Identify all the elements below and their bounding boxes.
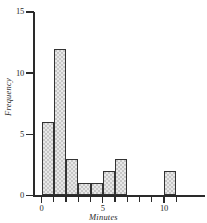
histogram-bars — [0, 0, 207, 223]
bar-3-4 — [78, 183, 90, 195]
bar-1-2 — [54, 49, 66, 196]
bar-0-1 — [42, 122, 54, 195]
bar-10-11 — [164, 171, 176, 195]
bar-6-7 — [115, 159, 127, 196]
histogram-figure: 051015 0510 Frequency Minutes — [0, 0, 207, 223]
y-axis-title: Frequency — [3, 65, 13, 129]
bar-2-3 — [66, 159, 78, 196]
x-axis-title: Minutes — [0, 212, 207, 222]
bar-5-6 — [103, 171, 115, 195]
bar-4-5 — [91, 183, 103, 195]
